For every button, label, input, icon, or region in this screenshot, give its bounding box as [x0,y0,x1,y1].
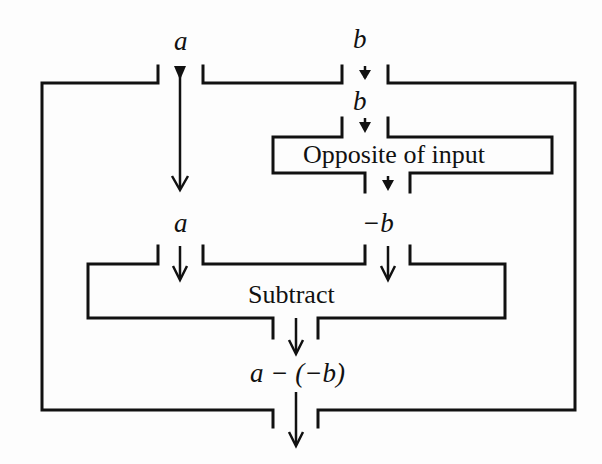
arrow-a-subtract [173,246,187,280]
arrow-b-opposite [359,118,371,133]
arrow-negb-subtract [381,246,395,280]
neg-b-label: −b [362,210,394,237]
arrow-subtract-output [289,318,303,354]
arrow-b-input [359,66,371,80]
arrow-opposite-output [382,176,394,191]
arrow-final-output [289,392,303,446]
opposite-box-label: Opposite of input [303,142,485,168]
subtract-box-label: Subtract [248,282,335,308]
inner-b-label: b [353,88,367,115]
inner-a-label: a [174,210,188,237]
function-machine-diagram [0,0,602,464]
arrow-a-input [172,66,188,190]
output-expression-label: a − (−b) [250,360,345,387]
input-b-label: b [353,26,367,53]
input-a-label: a [174,28,188,55]
